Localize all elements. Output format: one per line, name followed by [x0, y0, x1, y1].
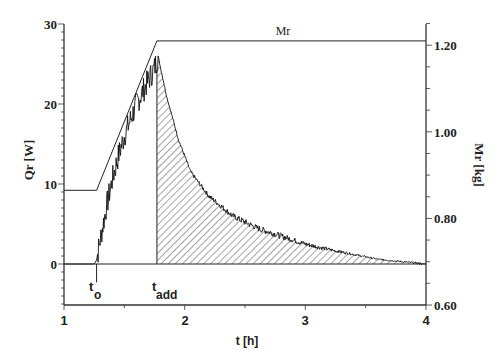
x-tick-4: 4: [422, 313, 430, 328]
hatched-area: [157, 56, 426, 264]
y2-tick-120: 1.20: [434, 38, 457, 53]
svg-text:add: add: [156, 288, 177, 302]
chart: 30 20 10 0 Qr [W] 1.20 1.00 0.80 0.60 Mr…: [0, 0, 499, 363]
svg-text:o: o: [94, 288, 101, 302]
y-tick-10: 10: [44, 177, 57, 192]
left-axis: 30 20 10 0 Qr [W]: [21, 17, 64, 305]
t-add-annotation: t add: [152, 279, 177, 302]
mr-series-label: Mr: [276, 24, 291, 38]
y2-tick-100: 1.00: [434, 125, 457, 140]
y2-tick-080: 0.80: [434, 211, 457, 226]
plot-area: [64, 41, 426, 283]
y-tick-20: 20: [44, 97, 57, 112]
t-o-annotation: t o: [89, 279, 101, 302]
x-axis-title: t [h]: [236, 334, 259, 348]
mr-line: [64, 41, 426, 190]
y-tick-0: 0: [51, 257, 58, 272]
x-tick-3: 3: [301, 313, 308, 328]
y-axis-title: Qr [W]: [21, 140, 36, 181]
x-axis: 1 2 3 4 t [h]: [60, 305, 430, 348]
x-tick-1: 1: [60, 313, 67, 328]
y2-axis-title: Mr [kg]: [472, 143, 487, 186]
x-tick-2: 2: [181, 313, 188, 328]
y2-tick-060: 0.60: [434, 298, 457, 313]
y-tick-30: 30: [44, 17, 57, 32]
right-axis: 1.20 1.00 0.80 0.60 Mr [kg]: [426, 24, 487, 313]
